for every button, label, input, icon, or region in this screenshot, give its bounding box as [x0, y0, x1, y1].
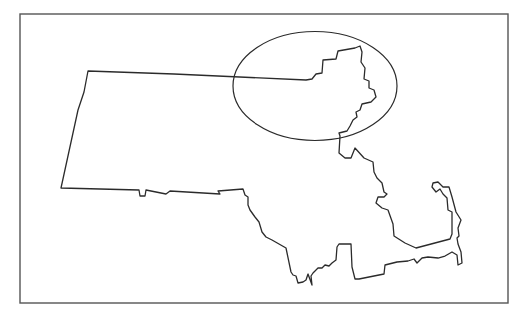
massachusetts-map	[0, 0, 528, 316]
map-background	[0, 0, 528, 316]
